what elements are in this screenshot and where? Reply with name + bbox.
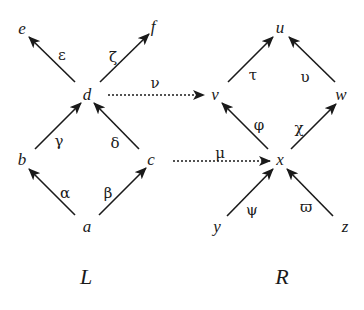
edge-labels: ε ζ γ δ α β τ υ φ χ ψ ϖ ν μ [55, 46, 313, 219]
graph-L-edges [29, 34, 149, 215]
node-y: y [211, 217, 221, 236]
label-zeta: ζ [109, 48, 117, 66]
node-a: a [83, 217, 92, 236]
node-d: d [83, 85, 92, 104]
node-u: u [276, 18, 285, 37]
node-x: x [275, 150, 284, 169]
graph-label-R: R [274, 264, 289, 289]
edge-upsilon-w-u [289, 37, 335, 82]
label-epsilon: ε [58, 46, 66, 64]
label-varpi: ϖ [300, 198, 312, 216]
node-b: b [18, 150, 27, 169]
label-delta: δ [110, 134, 119, 152]
graph-label-L: L [79, 264, 92, 289]
morphism-mappings [108, 95, 270, 161]
node-e: e [18, 19, 26, 38]
label-upsilon: υ [300, 68, 309, 86]
label-psi: ψ [246, 201, 258, 219]
graph-R-edges [222, 37, 336, 216]
label-phi: φ [254, 116, 265, 134]
node-v: v [211, 85, 219, 104]
node-w: w [335, 85, 347, 104]
node-c: c [147, 150, 155, 169]
graph-morphism-diagram: e f d b c a u v w x y z ε ζ γ δ α β τ υ … [0, 0, 364, 310]
label-nu: ν [150, 74, 159, 92]
label-gamma: γ [55, 132, 64, 150]
edge-epsilon-d-e [29, 37, 75, 82]
label-beta: β [104, 184, 113, 202]
label-chi: χ [294, 119, 303, 137]
node-f: f [151, 17, 158, 36]
label-mu: μ [215, 144, 225, 162]
node-z: z [341, 217, 349, 236]
label-alpha: α [60, 184, 70, 202]
edge-zeta-d-f [100, 34, 149, 82]
label-tau: τ [249, 66, 257, 84]
